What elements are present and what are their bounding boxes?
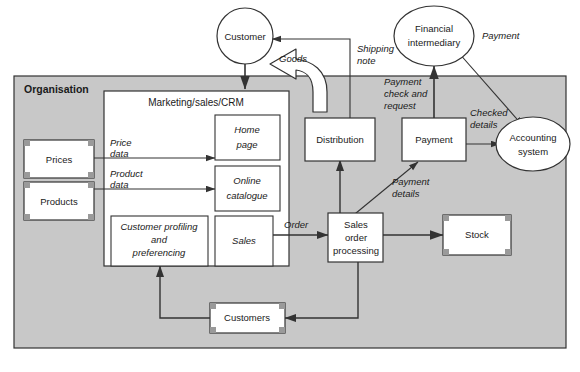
accounting-system-label-line2: system (518, 146, 548, 157)
handle-br-products (88, 214, 94, 220)
handle-br-customers (279, 327, 285, 333)
sop-label-line1: Sales (344, 219, 368, 230)
customers-label: Customers (224, 312, 270, 323)
information-flow-diagram: Organisation Marketing/sales/CRM Custome… (0, 0, 580, 372)
handle-tr-products (88, 182, 94, 188)
customer-profiling-label-line2: and (151, 234, 168, 245)
customer-profiling-label-line1: Customer profiling (120, 221, 198, 232)
prices-label: Prices (46, 154, 73, 165)
sop-label-line2: order (345, 232, 367, 243)
checked-details-label-line2: details (470, 119, 498, 130)
price-data-label-line2: data (110, 148, 129, 159)
handle-tr-stock (505, 215, 511, 221)
payment-check-label-line2: check and (384, 88, 428, 99)
handle-tl-prices (24, 140, 30, 146)
shipping-note-label-line2: note (357, 55, 376, 66)
handle-tl-stock (443, 215, 449, 221)
handle-bl-products (24, 214, 30, 220)
handle-br-prices (88, 172, 94, 178)
process-online-catalogue[interactable] (215, 166, 280, 211)
distribution-label: Distribution (316, 134, 364, 145)
handle-bl-stock (443, 249, 449, 255)
sop-label-line3: processing (333, 245, 379, 256)
order-label: Order (284, 219, 309, 230)
products-label: Products (40, 196, 78, 207)
shipping-note-label-line1: Shipping (357, 43, 395, 54)
stock-label: Stock (465, 229, 489, 240)
accounting-system-label-line1: Accounting (509, 132, 556, 143)
handle-tl-customers (210, 303, 216, 309)
home-page-label-line2: page (235, 139, 257, 150)
handle-tl-products (24, 182, 30, 188)
home-page-label-line1: Home (234, 124, 259, 135)
diagram-canvas: Organisation Marketing/sales/CRM Custome… (0, 0, 580, 372)
customer-label: Customer (224, 31, 265, 42)
process-accounting-system[interactable] (496, 117, 570, 171)
process-home-page[interactable] (215, 115, 280, 160)
handle-br-stock (505, 249, 511, 255)
online-catalogue-label-line1: Online (233, 175, 260, 186)
sales-label: Sales (232, 235, 256, 246)
marketing-sales-crm-label: Marketing/sales/CRM (148, 97, 244, 108)
product-data-label-line2: data (110, 179, 129, 190)
handle-bl-customers (210, 327, 216, 333)
handle-tr-prices (88, 140, 94, 146)
financial-intermediary-label-line2: intermediary (408, 37, 461, 48)
financial-intermediary-label-line1: Financial (415, 23, 453, 34)
goods-label: Goods (279, 53, 307, 64)
payment-details-label-line2: details (392, 188, 420, 199)
payment-flow-label: Payment (482, 30, 520, 41)
product-data-label-line1: Product (110, 168, 143, 179)
handle-tr-customers (279, 303, 285, 309)
payment-process-label: Payment (415, 134, 453, 145)
online-catalogue-label-line2: catalogue (226, 190, 267, 201)
payment-check-label-line1: Payment (384, 76, 422, 87)
handle-bl-prices (24, 172, 30, 178)
price-data-label-line1: Price (110, 137, 132, 148)
customer-profiling-label-line3: preferencing (132, 247, 187, 258)
payment-check-label-line3: request (384, 100, 416, 111)
organisation-boundary-label: Organisation (24, 83, 89, 95)
checked-details-label-line1: Checked (470, 107, 508, 118)
payment-details-label-line1: Payment (392, 176, 430, 187)
